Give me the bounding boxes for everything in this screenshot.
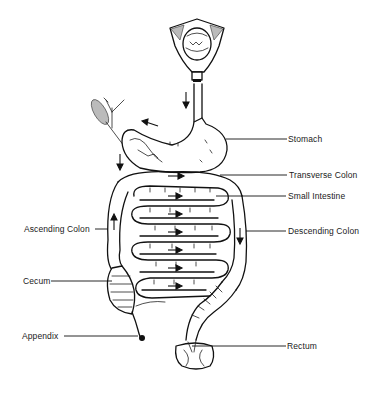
label-small-intestine: Small Intestine (288, 191, 345, 201)
label-ascending-colon: Ascending Colon (24, 224, 90, 234)
label-transverse-colon: Transverse Colon (289, 170, 357, 180)
gallbladder-illustration (88, 97, 124, 146)
label-cecum: Cecum (23, 276, 50, 286)
label-descending-colon: Descending Colon (288, 226, 359, 236)
mouth-illustration (170, 19, 224, 82)
label-appendix: Appendix (22, 331, 58, 341)
label-rectum: Rectum (287, 341, 317, 351)
esophagus (194, 84, 202, 122)
label-stomach: Stomach (288, 134, 322, 144)
small-intestine-illustration (132, 186, 230, 306)
stomach-illustration (122, 118, 227, 173)
